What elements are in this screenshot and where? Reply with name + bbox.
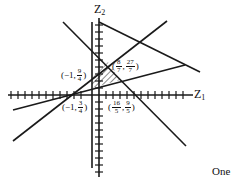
y-coord-fraction: 95 bbox=[125, 100, 131, 115]
y-coord-fraction: 94 bbox=[77, 68, 83, 83]
paren: ) bbox=[83, 71, 86, 80]
comma: , bbox=[122, 103, 124, 112]
x-coord-fraction: 87 bbox=[116, 59, 122, 74]
point-label-p4: (165,95) bbox=[108, 100, 135, 115]
paren: ) bbox=[84, 103, 87, 112]
constraint-line-ascending-steep bbox=[13, 21, 167, 141]
z1-label-sub: 1 bbox=[201, 93, 205, 102]
denominator: 5 bbox=[126, 108, 130, 115]
figure-caption: One bbox=[212, 166, 230, 177]
x-coord-fraction: 165 bbox=[112, 100, 121, 115]
x-coord: −1, bbox=[64, 71, 76, 80]
denominator: 7 bbox=[129, 67, 133, 74]
denominator: 4 bbox=[78, 76, 82, 83]
paren: ( bbox=[112, 62, 115, 71]
z2-axis-label: Z2 bbox=[94, 3, 105, 17]
comma: , bbox=[123, 62, 125, 71]
paren: ) bbox=[132, 103, 135, 112]
y-coord-fraction: 34 bbox=[78, 100, 84, 115]
x-coord: −1, bbox=[65, 103, 77, 112]
y-coord-fraction: 277 bbox=[126, 59, 135, 74]
denominator: 7 bbox=[117, 67, 121, 74]
z2-label-sub: 2 bbox=[101, 8, 105, 17]
z1-axis-label: Z1 bbox=[194, 88, 205, 102]
denominator: 4 bbox=[79, 108, 83, 115]
paren: ( bbox=[108, 103, 111, 112]
point-label-p1: (−1,94) bbox=[61, 68, 86, 83]
point-label-p2: (87,277) bbox=[112, 59, 139, 74]
paren: ) bbox=[136, 62, 139, 71]
denominator: 5 bbox=[115, 108, 119, 115]
point-label-p3: (−1,34) bbox=[62, 100, 87, 115]
constraint-line-descending bbox=[63, 22, 186, 146]
